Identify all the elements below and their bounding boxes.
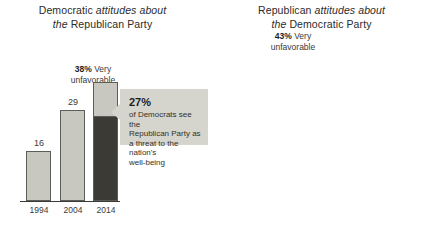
chart-title-right: Republican attitudes about the Democrati… — [219, 4, 424, 31]
top-note-right-text: Very — [292, 31, 311, 41]
chart-title-left-line2-italic: the — [53, 18, 71, 30]
x-tick-2014-left: 2014 — [86, 205, 126, 215]
bar-value-2004-left: 29 — [53, 97, 93, 107]
bar-1994-left — [26, 151, 51, 201]
bar-2004-left — [60, 110, 85, 201]
chart-title-right-line1-plain: Republican — [258, 4, 315, 16]
bar-value-1994-left: 16 — [19, 138, 59, 148]
callout-left-line1: of Democrats see the — [129, 110, 192, 129]
callout-left-line4: well-being — [129, 158, 165, 167]
callout-left-pct: 27% — [129, 96, 201, 109]
callout-arrow-left — [111, 104, 120, 120]
callout-left-line3: a threat to the nation's — [129, 139, 178, 158]
top-note-right: 43% Very unfavorable — [256, 31, 330, 52]
chart-title-right-line1-italic: attitudes about — [315, 4, 385, 16]
chart-title-left-line2-plain: Republican Party — [71, 18, 153, 30]
bar-2014-left — [93, 82, 118, 201]
x-axis-line-left — [20, 201, 120, 202]
chart-panel-republican-attitudes: Republican attitudes about the Democrati… — [215, 0, 430, 232]
chart-title-left-line1-plain: Democratic — [39, 4, 96, 16]
chart-title-left: Democratic attitudes about the Republica… — [0, 4, 205, 31]
plot-area-left: 16 29 1994 2004 2014 — [20, 52, 120, 202]
chart-title-left-line1-italic: attitudes about — [96, 4, 166, 16]
top-note-right-text2: unfavorable — [271, 42, 315, 52]
chart-title-right-line2-italic: the — [271, 18, 289, 30]
callout-left: 27% of Democrats see the Republican Part… — [120, 89, 208, 145]
chart-title-right-line2-plain: Democratic Party — [289, 18, 371, 30]
bar-2014-left-threat-segment — [93, 116, 118, 201]
callout-left-body: of Democrats see the Republican Party as… — [129, 110, 201, 168]
chart-panel-democratic-attitudes: Democratic attitudes about the Republica… — [0, 0, 215, 232]
callout-left-line2: Republican Party as — [129, 129, 201, 138]
top-note-right-value: 43% — [275, 31, 292, 41]
